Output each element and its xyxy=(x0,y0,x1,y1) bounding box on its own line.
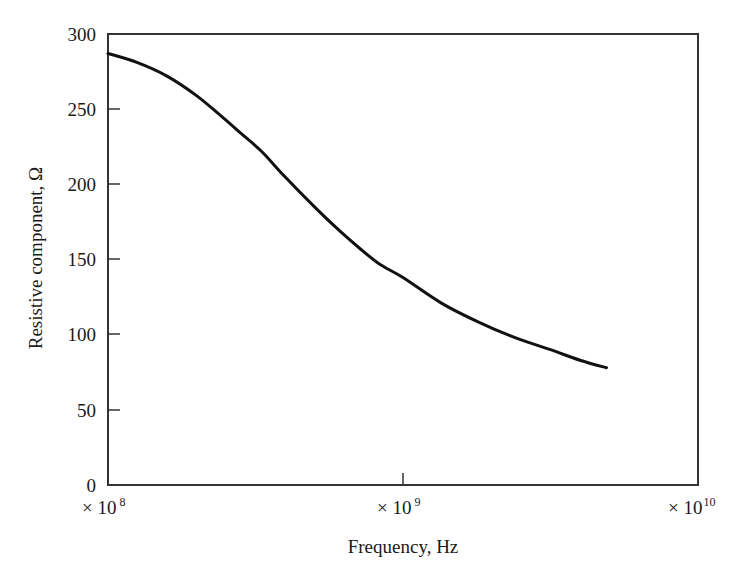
y-tick-label: 200 xyxy=(68,174,97,195)
y-tick-label: 50 xyxy=(77,400,96,421)
plot-frame xyxy=(108,34,698,485)
resistive-component-curve xyxy=(108,54,607,368)
y-tick-label: 100 xyxy=(68,324,97,345)
y-tick-label: 250 xyxy=(68,99,97,120)
x-tick-label-1e10: × 1010 xyxy=(668,495,715,518)
y-axis-ticks xyxy=(108,109,120,410)
y-tick-label: 300 xyxy=(68,24,97,45)
chart-canvas: 300 250 200 150 100 50 0 × 108 × 109 × 1… xyxy=(0,0,753,574)
y-tick-label: 0 xyxy=(87,475,97,496)
y-axis-label: Resistive component, Ω xyxy=(25,167,46,349)
y-axis-tick-labels: 300 250 200 150 100 50 0 xyxy=(68,24,97,496)
y-tick-label: 150 xyxy=(68,249,97,270)
x-axis-tick-labels: × 108 × 109 × 1010 xyxy=(82,495,715,518)
x-axis-label: Frequency, Hz xyxy=(348,536,459,557)
x-tick-label-1e8: × 108 xyxy=(82,495,125,518)
x-tick-label-1e9: × 109 xyxy=(377,495,420,518)
